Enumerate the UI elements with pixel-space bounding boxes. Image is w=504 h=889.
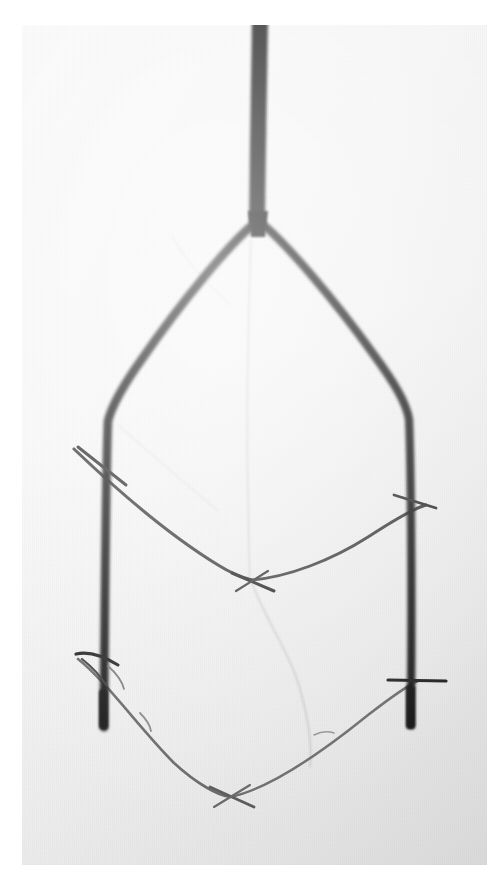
right-lower-binding-stub — [388, 680, 446, 681]
left-arm-tip — [99, 689, 108, 729]
fork-junction — [248, 211, 268, 237]
caption-area — [0, 865, 504, 889]
screenshot-viewport — [0, 0, 504, 889]
main-stem — [257, 25, 260, 219]
right-arm-tip — [406, 685, 415, 729]
photograph — [22, 25, 487, 865]
branch-photo-canvas — [22, 25, 487, 865]
